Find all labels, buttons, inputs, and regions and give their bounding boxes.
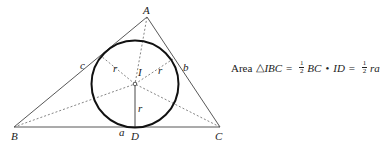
frac-denominator: 2 [300, 68, 304, 75]
label-A: A [142, 4, 150, 16]
label-C: C [215, 130, 223, 142]
label-r-bottom: r [138, 102, 143, 114]
fraction-half-2: 1 2 [362, 60, 367, 75]
term-BC: BC [307, 62, 321, 74]
radius-to-AB [101, 56, 135, 84]
dot-operator: • [325, 62, 329, 74]
label-B: B [11, 130, 18, 142]
formula-prefix: Area [231, 62, 252, 74]
frac-numerator: 1 [363, 60, 367, 67]
incircle-diagram: A B C D I a b c r r r [0, 0, 230, 149]
equals-2: = [349, 62, 355, 74]
label-side-a: a [119, 126, 125, 138]
fraction-half-1: 1 2 [299, 60, 304, 75]
bisector-B [14, 84, 135, 127]
triangle-name: IBC [264, 62, 282, 74]
frac-numerator: 1 [300, 60, 304, 67]
label-r-left: r [113, 62, 118, 74]
label-side-b: b [183, 61, 189, 73]
label-I: I [137, 66, 143, 78]
term-ID: ID [333, 62, 345, 74]
frac-denominator: 2 [363, 68, 367, 75]
equals-1: = [286, 62, 292, 74]
incenter-point [133, 82, 137, 86]
label-r-right: r [158, 64, 163, 76]
side-c-AB [14, 17, 147, 127]
term-ra: ra [370, 62, 380, 74]
label-D: D [130, 130, 139, 142]
label-side-c: c [80, 59, 85, 71]
area-formula: Area △ IBC = 1 2 BC • ID = 1 2 ra [231, 60, 380, 75]
